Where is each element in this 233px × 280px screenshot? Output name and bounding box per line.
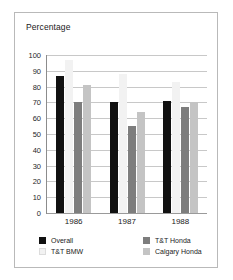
legend-item-calgary-honda: Calgary Honda xyxy=(143,246,202,257)
bar-group xyxy=(110,55,145,213)
y-axis-tick-label: 90 xyxy=(33,66,41,75)
y-axis-tick-label: 10 xyxy=(33,193,41,202)
legend-item-label: T&T Honda xyxy=(155,237,191,244)
chart-legend: Overall T&T Honda T&T BMW Calgary Honda xyxy=(39,235,211,257)
bars-layer xyxy=(47,55,207,213)
chart-frame: Percentage 1009080706050403020100 198619… xyxy=(14,12,218,268)
legend-swatch-icon xyxy=(39,248,46,255)
bar xyxy=(56,76,64,213)
y-axis-tick-labels: 1009080706050403020100 xyxy=(15,55,44,213)
bar xyxy=(110,102,118,213)
bar xyxy=(119,74,127,213)
legend-row: Overall T&T Honda xyxy=(39,235,211,246)
bar xyxy=(163,101,171,213)
legend-row: T&T BMW Calgary Honda xyxy=(39,246,211,257)
bar xyxy=(65,60,73,213)
gridline xyxy=(47,213,207,214)
y-axis-tick-label: 40 xyxy=(33,145,41,154)
y-axis-tick-label: 20 xyxy=(33,177,41,186)
legend-swatch-icon xyxy=(143,237,150,244)
legend-swatch-icon xyxy=(39,237,46,244)
bar-group xyxy=(163,55,198,213)
x-axis-tick-labels: 198619871988 xyxy=(47,217,207,229)
bar xyxy=(137,112,145,213)
plot-area xyxy=(47,55,207,213)
y-axis-tick-label: 0 xyxy=(37,209,41,218)
legend-item-label: T&T BMW xyxy=(51,248,83,255)
legend-item-overall: Overall xyxy=(39,235,73,246)
y-axis-tick-label: 50 xyxy=(33,130,41,139)
bar xyxy=(172,82,180,213)
x-axis-tick-label: 1986 xyxy=(65,217,83,226)
legend-item-tt-honda: T&T Honda xyxy=(143,235,191,246)
y-axis-tick-label: 30 xyxy=(33,161,41,170)
legend-item-label: Overall xyxy=(51,237,73,244)
y-axis-tick-label: 80 xyxy=(33,82,41,91)
y-axis-tick-label: 60 xyxy=(33,114,41,123)
bar xyxy=(83,85,91,213)
legend-item-label: Calgary Honda xyxy=(155,248,202,255)
y-axis-tick-label: 100 xyxy=(28,51,41,60)
y-axis-tick-label: 70 xyxy=(33,98,41,107)
bar xyxy=(190,102,198,213)
bar xyxy=(181,107,189,213)
legend-item-tt-bmw: T&T BMW xyxy=(39,246,83,257)
bar xyxy=(74,102,82,213)
chart-title: Percentage xyxy=(26,22,70,32)
bar-group xyxy=(56,55,91,213)
bar xyxy=(128,126,136,213)
legend-swatch-icon xyxy=(143,248,150,255)
x-axis-tick-label: 1988 xyxy=(171,217,189,226)
x-axis-tick-label: 1987 xyxy=(118,217,136,226)
